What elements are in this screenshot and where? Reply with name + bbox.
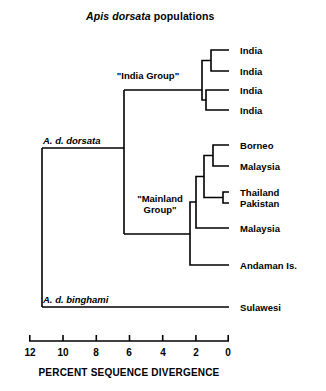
group-label-india: "India Group" xyxy=(117,70,179,81)
tip-label-sulawesi: Sulawesi xyxy=(240,302,281,313)
clade-india-b xyxy=(206,90,229,110)
tip-label-borneo: Borneo xyxy=(240,140,274,151)
title-rest-part: populations xyxy=(151,10,215,22)
axis-title: PERCENT SEQUENCE DIVERGENCE xyxy=(39,367,220,378)
clade-borneo-malaysia xyxy=(213,145,229,166)
clade-india-a xyxy=(211,50,229,71)
axis-ticklabel-12: 12 xyxy=(24,347,36,358)
tip-label-pakistan: Pakistan xyxy=(240,198,280,209)
tip-label-andaman: Andaman Is. xyxy=(240,260,297,271)
figure-canvas: Apis dorsata populations A. d. dors xyxy=(0,0,326,391)
tip-label-india-4: India xyxy=(240,105,263,116)
clade-label-dorsata: A. d. dorsata xyxy=(42,135,101,146)
page-title: Apis dorsata populations xyxy=(85,10,214,22)
tip-label-india-1: India xyxy=(240,45,263,56)
axis-ticklabel-10: 10 xyxy=(57,347,69,358)
tip-label-malaysia-1: Malaysia xyxy=(240,161,281,172)
axis-ticklabel-4: 4 xyxy=(160,347,166,358)
axis-ticklabel-8: 8 xyxy=(93,347,99,358)
tip-label-india-2: India xyxy=(240,66,263,77)
tip-label-india-3: India xyxy=(240,85,263,96)
dendrogram-figure: Apis dorsata populations A. d. dors xyxy=(0,0,326,391)
axis-ticklabel-0: 0 xyxy=(225,347,231,358)
title-italic-part: Apis dorsata xyxy=(85,10,151,22)
tip-label-malaysia-2: Malaysia xyxy=(240,223,281,234)
group-label-mainland-line1: "Mainland xyxy=(137,193,183,204)
tip-label-thailand: Thailand xyxy=(240,187,280,198)
clade-thailand-pakistan xyxy=(223,192,229,203)
group-label-mainland-line2: Group" xyxy=(144,204,177,215)
axis-ticklabel-6: 6 xyxy=(126,347,132,358)
axis-ticklabel-2: 2 xyxy=(193,347,199,358)
clade-label-binghami: A. d. binghami xyxy=(42,294,109,305)
